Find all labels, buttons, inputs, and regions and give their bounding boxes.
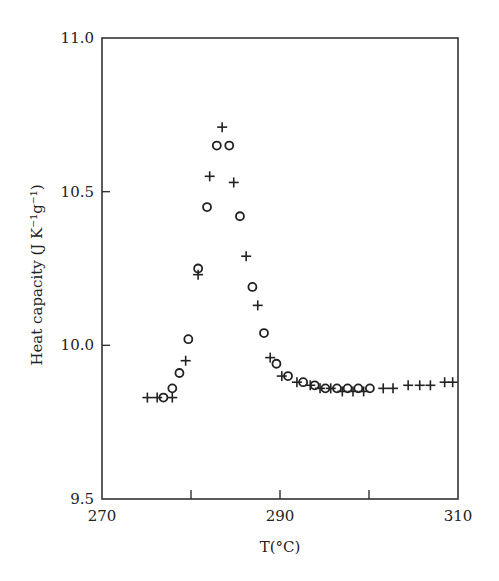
plus-marker bbox=[448, 377, 458, 387]
circle-marker bbox=[213, 142, 221, 150]
plus-marker bbox=[217, 122, 227, 132]
y-tick-label: 10.0 bbox=[61, 336, 94, 354]
plus-marker bbox=[205, 171, 215, 181]
plus-marker bbox=[253, 300, 263, 310]
series-plus-markers bbox=[142, 122, 457, 402]
x-axis-title: T(°C) bbox=[260, 538, 301, 556]
plus-marker bbox=[181, 356, 191, 366]
circle-marker bbox=[344, 384, 352, 392]
heat-capacity-chart: 270290310 9.510.010.511.0 T(°C) Heat cap… bbox=[0, 0, 499, 581]
circle-marker bbox=[175, 369, 183, 377]
y-axis-ticks bbox=[102, 192, 110, 346]
circle-marker bbox=[225, 142, 233, 150]
x-tick-label: 270 bbox=[88, 507, 117, 525]
circle-marker bbox=[272, 360, 280, 368]
plus-marker bbox=[167, 393, 177, 403]
x-axis-tick-labels: 270290310 bbox=[88, 507, 473, 525]
y-axis-tick-labels: 9.510.010.511.0 bbox=[61, 29, 94, 508]
circle-marker bbox=[184, 335, 192, 343]
y-tick-label: 9.5 bbox=[70, 490, 94, 508]
circle-marker bbox=[260, 329, 268, 337]
plus-marker bbox=[378, 383, 388, 393]
y-tick-label: 11.0 bbox=[61, 29, 94, 47]
plus-marker bbox=[142, 393, 152, 403]
x-tick-label: 310 bbox=[444, 507, 473, 525]
y-axis-title: Heat capacity (J K⁻¹g⁻¹) bbox=[28, 184, 46, 365]
plus-marker bbox=[403, 380, 413, 390]
x-tick-label: 290 bbox=[266, 507, 295, 525]
circle-marker bbox=[236, 212, 244, 220]
plus-marker bbox=[415, 380, 425, 390]
plus-marker bbox=[241, 251, 251, 261]
plot-frame bbox=[102, 38, 458, 499]
circle-marker bbox=[354, 384, 362, 392]
circle-marker bbox=[248, 283, 256, 291]
circle-marker bbox=[168, 384, 176, 392]
plus-marker bbox=[388, 383, 398, 393]
circle-marker bbox=[203, 203, 211, 211]
y-tick-label: 10.5 bbox=[61, 183, 94, 201]
series-circle-markers bbox=[159, 142, 373, 402]
x-axis-ticks bbox=[191, 490, 369, 499]
circle-marker bbox=[366, 384, 374, 392]
plus-marker bbox=[229, 177, 239, 187]
plus-marker bbox=[425, 380, 435, 390]
